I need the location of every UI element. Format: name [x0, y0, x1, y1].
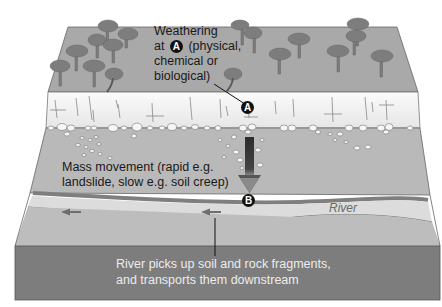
marker-a-icon: A — [170, 40, 183, 53]
mass-movement-arrow-icon — [245, 137, 254, 177]
river-label: River — [329, 201, 357, 215]
mass-movement-label-line1: Mass movement (rapid e.g. — [62, 160, 229, 175]
marker-a-icon: A — [241, 101, 254, 114]
weathering-label: Weathering at A (physical, chemical or b… — [154, 24, 241, 84]
weathering-label-at: at — [154, 39, 164, 53]
weathering-label-line3: chemical or — [154, 54, 241, 69]
weathering-label-physical: (physical, — [188, 39, 241, 53]
transport-label-line1: River picks up soil and rock fragments, — [116, 256, 331, 272]
weathering-label-line4: biological) — [154, 69, 241, 84]
transport-label-line2: and transports them downstream — [116, 272, 331, 288]
weathering-label-line2: at A (physical, — [154, 39, 241, 54]
marker-b-icon: B — [242, 194, 255, 207]
weathering-label-line1: Weathering — [154, 24, 241, 39]
transport-label: River picks up soil and rock fragments, … — [116, 256, 331, 288]
mass-movement-label: Mass movement (rapid e.g. landslide, slo… — [62, 160, 229, 190]
bedrock-band — [46, 92, 420, 128]
mass-movement-label-line2: landslide, slow e.g. soil creep) — [62, 175, 229, 190]
